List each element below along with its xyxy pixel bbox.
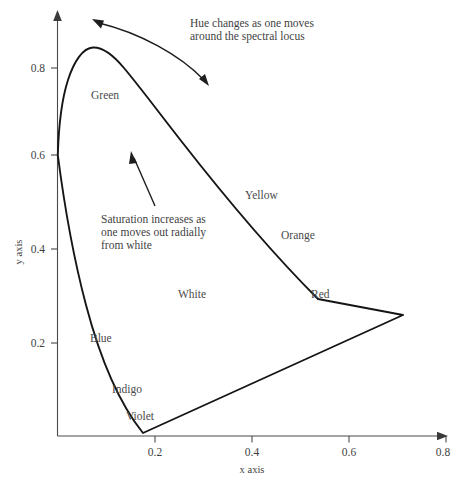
saturation-annotation-line-1: Saturation increases as (101, 213, 206, 225)
y-tick-label-2: 0.4 (31, 243, 46, 255)
y-axis-title: y axis (13, 240, 24, 265)
region-label-orange: Orange (281, 229, 315, 242)
y-tick-label-4: 0.8 (31, 62, 46, 74)
region-label-green: Green (91, 89, 119, 101)
region-label-red: Red (311, 288, 330, 300)
region-label-yellow: Yellow (245, 189, 278, 201)
hue-annotation-line-2: around the spectral locus (190, 30, 305, 43)
region-label-indigo: Indigo (112, 383, 142, 396)
region-label-violet: Violet (126, 410, 155, 422)
figure-background (0, 0, 458, 484)
saturation-annotation-line-2: one moves out radially (101, 226, 206, 239)
saturation-annotation-line-3: from white (101, 239, 152, 251)
region-label-blue: Blue (90, 332, 112, 344)
region-label-white: White (178, 288, 206, 300)
x-tick-label-2: 0.4 (245, 446, 260, 458)
x-axis-title: x axis (240, 464, 265, 475)
x-tick-label-1: 0.2 (148, 446, 163, 458)
x-tick-label-4: 0.8 (436, 446, 451, 458)
hue-annotation-line-1: Hue changes as one moves (190, 17, 314, 30)
y-tick-label-3: 0.6 (31, 149, 46, 161)
y-tick-label-1: 0.2 (31, 337, 46, 349)
x-tick-label-3: 0.6 (342, 446, 357, 458)
chromaticity-diagram: 0.2 0.4 0.6 0.8 0.8 0.6 0.4 0.2 x axis y… (0, 0, 458, 484)
